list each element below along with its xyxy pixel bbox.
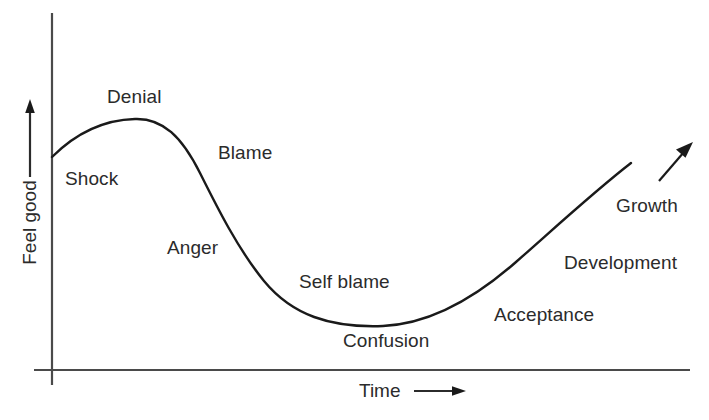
y-axis-arrow-icon — [25, 99, 35, 177]
stage-label-shock: Shock — [65, 169, 118, 188]
stage-label-blame: Blame — [218, 143, 272, 162]
stage-label-growth: Growth — [616, 196, 678, 215]
x-axis-arrow-icon — [414, 386, 466, 396]
change-curve-path — [52, 119, 631, 326]
chart-canvas — [0, 0, 709, 420]
y-axis-title: Feel good — [20, 168, 39, 278]
stage-label-development: Development — [564, 253, 677, 272]
stage-label-confusion: Confusion — [343, 331, 429, 350]
stage-label-acceptance: Acceptance — [494, 305, 594, 324]
growth-trend-arrow-icon — [659, 142, 693, 181]
x-axis-title: Time — [359, 381, 401, 400]
change-curve-figure: Feel good Time Shock Denial Blame Anger … — [0, 0, 709, 420]
stage-label-denial: Denial — [107, 87, 161, 106]
stage-label-self-blame: Self blame — [299, 272, 390, 291]
stage-label-anger: Anger — [167, 238, 218, 257]
